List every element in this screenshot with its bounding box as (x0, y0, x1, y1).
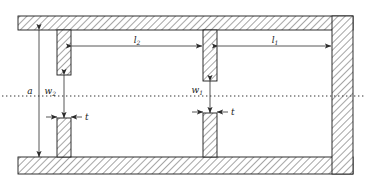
right-end-wall (332, 16, 353, 174)
left-iris-lower-septum (57, 118, 71, 157)
left-iris-upper-septum (57, 30, 71, 75)
waveguide-metal-body (18, 16, 353, 174)
label-t-left: t (85, 112, 89, 122)
label-l1-sub: 1 (275, 39, 279, 46)
figure-canvas: a w2 w1 l2 l1 (0, 0, 366, 190)
svg-text:l2: l2 (134, 35, 141, 46)
bottom-wall (18, 157, 353, 174)
dimension-l1: l1 (218, 35, 331, 46)
svg-text:w2: w2 (44, 86, 56, 97)
center-iris-lower-septum (203, 113, 217, 157)
label-t-center: t (231, 107, 235, 117)
label-l2-sub: 2 (136, 39, 141, 46)
dimension-w1: w1 (191, 81, 210, 113)
dimension-l2: l2 (72, 35, 202, 46)
svg-text:t: t (85, 112, 89, 122)
svg-text:l1: l1 (272, 35, 279, 46)
svg-text:a: a (27, 86, 32, 96)
svg-text:t: t (231, 107, 235, 117)
label-w2-sub: 2 (51, 90, 56, 97)
label-w1-sub: 1 (199, 89, 203, 96)
top-wall (18, 16, 353, 30)
center-iris-upper-septum (203, 30, 217, 81)
waveguide-cross-section-diagram: a w2 w1 l2 l1 (0, 0, 366, 190)
dimension-a: a (27, 30, 39, 157)
svg-text:w1: w1 (191, 85, 203, 96)
label-a: a (27, 86, 32, 96)
